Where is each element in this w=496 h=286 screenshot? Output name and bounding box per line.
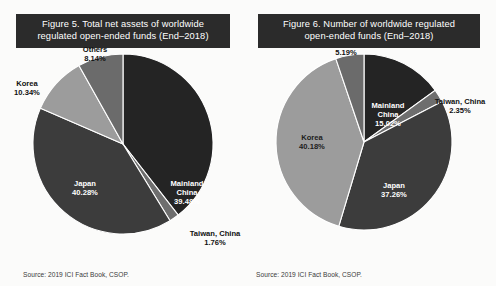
pie-slice-label: Japan40.28% — [72, 179, 98, 197]
figure-6-pie-svg: MainlandChina15.02%Taiwan, China2.35%Jap… — [248, 46, 496, 256]
figure-5-chart: MainlandChina39.48%Taiwan, China1.76%Jap… — [0, 46, 248, 256]
figure-5-panel: Figure 5. Total net assets of worldwide … — [0, 0, 248, 286]
figure-5-title-line-1: Figure 5. Total net assets of worldwide — [22, 18, 224, 30]
pie-slice-label: Korea10.34% — [14, 79, 40, 97]
figure-6-source: Source: 2019 ICI Fact Book, CSOP. — [256, 271, 362, 278]
pie-slice-label: Taiwan, China1.76% — [190, 229, 241, 247]
figure-6-title: Figure 6. Number of worldwide regulated … — [258, 14, 480, 48]
figures-page: Figure 5. Total net assets of worldwide … — [0, 0, 496, 286]
figure-6-title-line-2: open-ended funds (End–2018) — [264, 30, 474, 42]
pie-slice-label: Japan37.26% — [381, 181, 407, 199]
pie-slice-label: Others5.19% — [334, 46, 358, 57]
figure-5-source: Source: 2019 ICI Fact Book, CSOP. — [23, 271, 129, 278]
figure-6-panel: Figure 6. Number of worldwide regulated … — [248, 0, 496, 286]
figure-6-chart: MainlandChina15.02%Taiwan, China2.35%Jap… — [248, 46, 496, 256]
pie-slice-label: Korea40.18% — [299, 133, 325, 151]
figure-5-title-line-2: regulated open-ended funds (End–2018) — [22, 30, 224, 42]
pie-slice-label: Others8.14% — [83, 46, 107, 63]
figure-6-title-line-1: Figure 6. Number of worldwide regulated — [264, 18, 474, 30]
figure-5-pie-svg: MainlandChina39.48%Taiwan, China1.76%Jap… — [0, 46, 248, 256]
figure-5-title: Figure 5. Total net assets of worldwide … — [16, 14, 230, 48]
